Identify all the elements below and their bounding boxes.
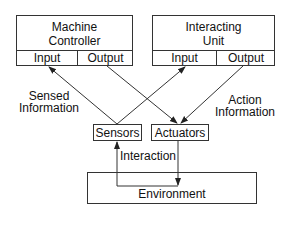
- action-information-label-line2: Information: [210, 106, 280, 118]
- sensed-information-label-line2: Information: [14, 102, 84, 114]
- interaction-label: Interaction: [119, 150, 177, 162]
- sensed-arrow-to-unit: [117, 67, 185, 124]
- action-arrow-from-controller: [107, 66, 177, 123]
